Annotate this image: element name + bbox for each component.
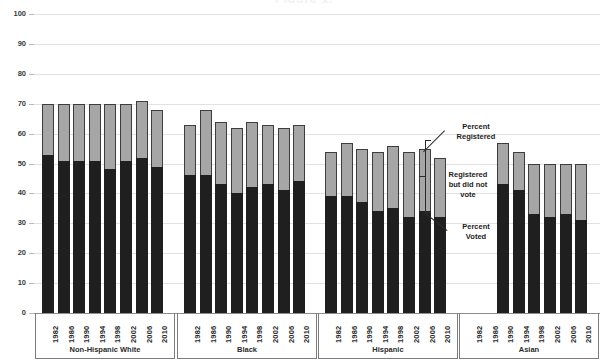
x-axis-tick-1998: 1998 (396, 313, 405, 343)
bar-segment-voted (575, 220, 587, 313)
bar-segment-voted (42, 155, 54, 313)
y-axis-tick-20: 20 (0, 248, 26, 257)
bar-segment-voted (544, 217, 556, 313)
group-label: Hispanic (319, 345, 457, 354)
bar-hispanic-1994 (372, 152, 384, 313)
x-axis-tick-1982: 1982 (334, 313, 343, 343)
x-axis-tick-1982: 1982 (51, 313, 60, 343)
bar-black-2006 (278, 128, 290, 313)
brace-bracket (425, 140, 431, 213)
bar-black-1986 (200, 110, 212, 313)
bar-segment-voted (231, 193, 243, 313)
bar-segment-voted (497, 184, 509, 313)
bar-segment-voted (403, 217, 415, 313)
annotation-registered-not-voted: Registered but did not vote (437, 170, 499, 200)
bar-segment-voted (246, 187, 258, 313)
bar-non-hispanic-white-1990 (73, 104, 85, 313)
bar-segment-voted (372, 211, 384, 313)
bar-asian-2002 (544, 164, 556, 314)
bar-hispanic-2002 (403, 152, 415, 313)
y-axis-tick-100: 100 (0, 9, 26, 18)
bar-asian-1994 (513, 152, 525, 313)
y-axis-tick-mark-0 (29, 313, 34, 314)
gridline-80 (32, 74, 600, 75)
x-axis-tick-1994: 1994 (240, 313, 249, 343)
bar-segment-voted (104, 169, 116, 313)
x-axis-tick-1994: 1994 (98, 313, 107, 343)
x-axis-tick-1994: 1994 (522, 313, 531, 343)
x-axis-tick-2010: 2010 (584, 313, 593, 343)
x-axis-tick-1998: 1998 (113, 313, 122, 343)
group-label: Black (178, 345, 316, 354)
gridline-60 (32, 134, 600, 135)
bar-segment-voted (120, 161, 132, 313)
bar-segment-voted (262, 184, 274, 313)
bar-asian-2006 (560, 164, 572, 314)
bar-segment-voted (513, 190, 525, 313)
bar-hispanic-1982 (325, 152, 337, 313)
annotation-percent-registered: Percent Registered (446, 122, 506, 142)
bar-segment-voted (200, 175, 212, 313)
y-axis-tick-40: 40 (0, 188, 26, 197)
x-axis-tick-2006: 2006 (287, 313, 296, 343)
bar-segment-voted (184, 175, 196, 313)
bar-asian-2010 (575, 164, 587, 314)
x-axis-tick-1986: 1986 (491, 313, 500, 343)
bar-black-2010 (293, 125, 305, 313)
y-axis-tick-30: 30 (0, 218, 26, 227)
plot-area (32, 14, 600, 313)
x-axis-tick-2010: 2010 (302, 313, 311, 343)
x-axis-tick-1990: 1990 (506, 313, 515, 343)
bar-segment-voted (151, 167, 163, 314)
bar-chart: Figure 1. Non-Hispanic White198219861990… (0, 0, 608, 362)
bar-segment-voted (293, 181, 305, 313)
x-axis-tick-1994: 1994 (381, 313, 390, 343)
y-axis-tick-10: 10 (0, 278, 26, 287)
bar-segment-voted (434, 217, 446, 313)
x-axis-tick-1998: 1998 (537, 313, 546, 343)
gridline-100 (32, 14, 600, 15)
y-axis-tick-50: 50 (0, 159, 26, 168)
annotation-line-1: Percent (462, 222, 490, 231)
y-axis-tick-0: 0 (0, 308, 26, 317)
x-axis-tick-2010: 2010 (160, 313, 169, 343)
x-axis-tick-1982: 1982 (475, 313, 484, 343)
gridline-70 (32, 104, 600, 105)
chart-title: Figure 1. (0, 0, 608, 3)
bar-segment-voted (387, 208, 399, 313)
y-axis-tick-mark-90 (29, 44, 34, 45)
bar-non-hispanic-white-1994 (89, 104, 101, 313)
bar-segment-voted (560, 214, 572, 313)
x-axis-tick-2002: 2002 (553, 313, 562, 343)
bar-segment-voted (528, 214, 540, 313)
x-axis-tick-2006: 2006 (428, 313, 437, 343)
x-axis-tick-2002: 2002 (412, 313, 421, 343)
bar-segment-voted (89, 161, 101, 313)
bar-hispanic-1986 (341, 143, 353, 313)
bar-black-2002 (262, 125, 274, 313)
y-axis-tick-mark-80 (29, 74, 34, 75)
bar-non-hispanic-white-2010 (151, 110, 163, 313)
x-axis-tick-1990: 1990 (82, 313, 91, 343)
group-label: Asian (460, 345, 598, 354)
x-axis-tick-2010: 2010 (443, 313, 452, 343)
bar-black-1998 (246, 122, 258, 313)
y-axis-tick-70: 70 (0, 99, 26, 108)
bar-non-hispanic-white-2006 (136, 101, 148, 313)
y-axis-tick-mark-20 (29, 253, 34, 254)
bar-black-1990 (215, 122, 227, 313)
category-axis: Non-Hispanic White1982198619901994199820… (32, 313, 600, 362)
y-axis-tick-mark-40 (29, 193, 34, 194)
x-axis-tick-2002: 2002 (271, 313, 280, 343)
bar-segment-voted (356, 202, 368, 313)
y-axis-tick-mark-100 (29, 14, 34, 15)
y-axis-tick-mark-30 (29, 223, 34, 224)
bar-hispanic-1990 (356, 149, 368, 313)
y-axis-tick-mark-50 (29, 164, 34, 165)
bar-asian-1998 (528, 164, 540, 314)
y-axis-tick-60: 60 (0, 129, 26, 138)
bar-black-1982 (184, 125, 196, 313)
annotation-line-2: Registered (457, 132, 496, 141)
annotation-percent-voted: Percent Voted (448, 222, 504, 242)
y-axis-tick-mark-10 (29, 283, 34, 284)
